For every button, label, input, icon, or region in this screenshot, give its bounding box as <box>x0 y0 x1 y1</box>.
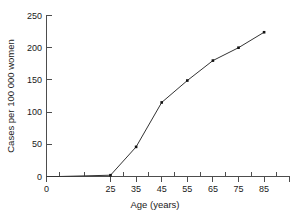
x-ticklabel-55: 55 <box>182 184 192 194</box>
data-point <box>237 46 240 49</box>
line-chart: 250 200 150 100 50 0 0 25 35 45 55 65 75 <box>0 0 302 217</box>
x-ticklabel-45: 45 <box>157 184 167 194</box>
y-ticklabel-250: 250 <box>27 11 42 21</box>
y-ticklabel-150: 150 <box>27 75 42 85</box>
y-ticklabel-50: 50 <box>32 139 42 149</box>
x-ticklabel-25: 25 <box>105 184 115 194</box>
chart-canvas: 250 200 150 100 50 0 0 25 35 45 55 65 75 <box>0 0 302 217</box>
y-axis-title: Cases per 100 000 women <box>5 39 16 153</box>
data-point <box>263 31 266 34</box>
x-ticklabel-0: 0 <box>44 184 49 194</box>
data-series-line <box>47 32 265 176</box>
x-ticklabel-75: 75 <box>233 184 243 194</box>
y-ticklabel-200: 200 <box>27 43 42 53</box>
data-point <box>186 79 189 82</box>
x-axis-title: Age (years) <box>130 199 179 210</box>
y-ticklabel-0: 0 <box>37 172 42 182</box>
data-point <box>135 146 138 149</box>
data-point <box>160 101 163 104</box>
y-ticklabel-100: 100 <box>27 107 42 117</box>
data-point <box>212 59 215 62</box>
data-point <box>109 174 112 177</box>
data-series-markers <box>109 31 265 177</box>
x-ticklabel-85: 85 <box>259 184 269 194</box>
x-ticklabel-65: 65 <box>208 184 218 194</box>
x-ticklabel-35: 35 <box>131 184 141 194</box>
